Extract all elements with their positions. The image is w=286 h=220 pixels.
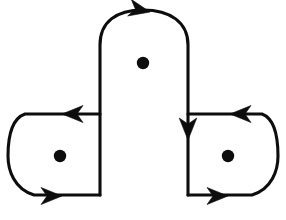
- arch-loop-path: [100, 10, 188, 195]
- curve-diagram-svg: [0, 0, 286, 220]
- top-puncture-dot: [137, 57, 149, 69]
- diagram-canvas: Three-loop oriented curve diagram with t…: [0, 0, 286, 220]
- left-puncture-dot: [54, 150, 66, 162]
- right-puncture-dot: [222, 150, 234, 162]
